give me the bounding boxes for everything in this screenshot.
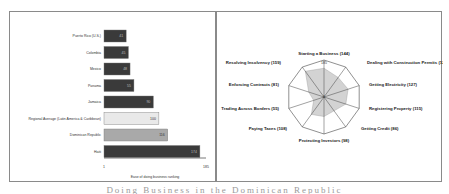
bar-value-label: 55 bbox=[127, 84, 131, 88]
bar-value-label: 90 bbox=[146, 100, 150, 104]
radar-category-label: Getting Electricity (127) bbox=[369, 82, 418, 87]
bar-category-label: Dominican Republic bbox=[70, 133, 101, 137]
figure-caption: Doing Business in the Dominican Republic bbox=[0, 185, 449, 194]
bar-value-label: 116 bbox=[159, 133, 165, 137]
radar-center-scale-label: 1 bbox=[323, 95, 325, 99]
radar-category-label: Protecting Investors (98) bbox=[299, 138, 350, 143]
bar-category-label: Jamaica bbox=[88, 100, 101, 104]
radar-category-label: Starting a Business (144) bbox=[298, 51, 350, 56]
bar-category-label: Haiti bbox=[94, 150, 101, 154]
radar-category-label: Trading Across Borders (55) bbox=[221, 106, 279, 111]
radar-category-label: Enforcing Contracts (81) bbox=[229, 82, 280, 87]
bar-value-label: 41 bbox=[119, 34, 123, 38]
bar-category-label: Puerto Rico (U.S.) bbox=[73, 34, 101, 38]
radar-category-label: Dealing with Construction Permits (121) bbox=[367, 60, 443, 65]
bar-category-label: Colombia bbox=[86, 51, 101, 55]
ranking-bar-chart-panel: Puerto Rico (U.S.)41Colombia45Mexico48Pa… bbox=[9, 11, 216, 182]
radar-category-label: Registering Property (115) bbox=[369, 106, 423, 111]
bar-category-label: Mexico bbox=[90, 67, 101, 71]
x-axis-title: Ease of doing business ranking bbox=[131, 175, 180, 179]
x-tick-min: 1 bbox=[103, 165, 105, 169]
indicator-radar-chart: 1851Starting a Business (144)Dealing wit… bbox=[217, 12, 443, 183]
bar-7 bbox=[104, 146, 200, 158]
bar-value-label: 45 bbox=[121, 51, 125, 55]
indicator-radar-chart-panel: 1851Starting a Business (144)Dealing wit… bbox=[216, 11, 442, 182]
radar-category-label: Resolving Insolvency (159) bbox=[226, 60, 282, 65]
bar-value-label: 48 bbox=[123, 67, 127, 71]
bar-value-label: 174 bbox=[191, 150, 197, 154]
ranking-bar-chart: Puerto Rico (U.S.)41Colombia45Mexico48Pa… bbox=[10, 12, 217, 183]
bar-category-label: Regional Average (Latin America & Caribb… bbox=[28, 117, 101, 121]
bar-category-label: Panama bbox=[88, 84, 101, 88]
radar-data-area bbox=[305, 68, 348, 116]
x-tick-max: 185 bbox=[203, 165, 209, 169]
radar-outer-scale-label: 185 bbox=[321, 61, 327, 65]
radar-category-label: Getting Credit (86) bbox=[361, 126, 399, 131]
bar-value-label: 100 bbox=[150, 117, 156, 121]
radar-category-label: Paying Taxes (108) bbox=[249, 126, 288, 131]
